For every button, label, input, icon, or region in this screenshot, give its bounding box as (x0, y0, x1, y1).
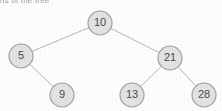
tree-node-9[interactable]: 9 (50, 83, 74, 107)
binary-search-tree-figure: ns of the tree 1052191328 (0, 0, 222, 111)
tree-node-13[interactable]: 13 (120, 83, 144, 107)
node-label-13: 13 (126, 88, 138, 100)
tree-node-28[interactable]: 28 (192, 83, 216, 107)
node-label-9: 9 (59, 88, 65, 100)
tree-canvas: 1052191328 (0, 0, 222, 111)
node-label-28: 28 (198, 88, 210, 100)
tree-node-5[interactable]: 5 (9, 44, 33, 68)
node-label-5: 5 (18, 49, 24, 61)
tree-node-10[interactable]: 10 (88, 11, 112, 35)
node-label-10: 10 (94, 16, 106, 28)
node-layer: 1052191328 (9, 11, 216, 107)
node-label-21: 21 (164, 51, 176, 63)
tree-edge-n10-n5 (21, 23, 100, 56)
tree-node-21[interactable]: 21 (158, 46, 182, 70)
